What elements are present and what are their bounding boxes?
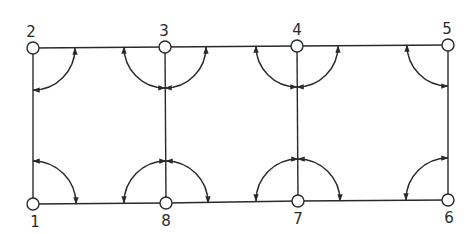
truss-diagram: 12345678 <box>0 0 475 234</box>
angle-arcs <box>33 45 448 204</box>
member-3-4 <box>165 46 297 47</box>
joint-6 <box>442 194 454 206</box>
joint-label-1: 1 <box>30 213 40 231</box>
member-8-7 <box>166 201 298 203</box>
joint-label-2: 2 <box>26 23 36 41</box>
angle-arc-4-left-down <box>256 46 297 87</box>
joint-7 <box>292 195 304 207</box>
joint-5 <box>442 39 454 51</box>
angle-arc-5-left-down <box>407 45 448 86</box>
angle-arc-7-left-up <box>256 159 298 201</box>
member-1-8 <box>33 203 166 204</box>
joints <box>27 39 454 210</box>
angle-arc-3-right-down <box>165 47 206 88</box>
joint-label-8: 8 <box>161 212 171 230</box>
member-4-5 <box>297 45 448 46</box>
joint-4 <box>291 40 303 52</box>
joint-label-7: 7 <box>293 210 303 228</box>
joint-label-6: 6 <box>444 209 454 227</box>
member-8-3 <box>165 47 166 203</box>
angle-arc-4-right-down <box>297 46 338 87</box>
angle-arc-1-right-up <box>33 161 76 204</box>
joint-labels: 12345678 <box>26 20 454 231</box>
joint-label-4: 4 <box>292 21 302 39</box>
joint-1 <box>27 198 39 210</box>
joint-8 <box>160 197 172 209</box>
joint-3 <box>159 41 171 53</box>
angle-arc-8-left-up <box>124 161 166 203</box>
member-2-3 <box>33 47 165 48</box>
joint-2 <box>27 42 39 54</box>
joint-label-5: 5 <box>442 20 452 38</box>
joint-label-3: 3 <box>159 22 169 40</box>
members <box>33 45 448 204</box>
angle-arc-6-left-up <box>406 158 448 200</box>
angle-arc-2-right-down <box>33 48 75 90</box>
member-7-6 <box>298 200 448 201</box>
member-7-4 <box>297 46 298 201</box>
angle-arc-8-right-up <box>166 161 208 203</box>
angle-arc-7-right-up <box>298 159 340 201</box>
angle-arc-3-left-down <box>124 47 165 88</box>
